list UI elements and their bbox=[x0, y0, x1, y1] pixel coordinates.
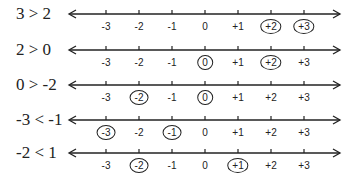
number-line-row: 3 > 2-3-2-10+1+2+3 bbox=[0, 14, 360, 49]
tick-label: -2 bbox=[135, 57, 144, 68]
tick-label: -1 bbox=[168, 21, 177, 32]
tick-label: +3 bbox=[298, 160, 309, 171]
number-line-axis bbox=[0, 45, 360, 55]
number-line-axis bbox=[0, 115, 360, 125]
tick-label: +2 bbox=[265, 160, 276, 171]
tick-label: +1 bbox=[232, 127, 243, 138]
tick-label: -2 bbox=[135, 21, 144, 32]
tick-label: -3 bbox=[102, 57, 111, 68]
circled-tick-label: +2 bbox=[260, 19, 281, 34]
tick-label: +2 bbox=[265, 92, 276, 103]
tick-label: 0 bbox=[202, 21, 208, 32]
circled-tick-label: -1 bbox=[163, 125, 182, 140]
circled-tick-label: -2 bbox=[130, 90, 149, 105]
tick-label: -1 bbox=[168, 57, 177, 68]
tick-label: 0 bbox=[202, 160, 208, 171]
tick-label: -3 bbox=[102, 21, 111, 32]
number-line-axis bbox=[0, 9, 360, 19]
number-line-row: -2 < 1-3-2-10+1+2+3 bbox=[0, 153, 360, 179]
circled-tick-label: +2 bbox=[260, 55, 281, 70]
tick-label: -3 bbox=[102, 92, 111, 103]
circled-tick-label: +1 bbox=[227, 158, 248, 173]
tick-label: +1 bbox=[232, 57, 243, 68]
circled-tick-label: 0 bbox=[197, 90, 213, 105]
tick-label: +3 bbox=[298, 127, 309, 138]
tick-label: 0 bbox=[202, 127, 208, 138]
tick-label: +2 bbox=[265, 127, 276, 138]
tick-label: +1 bbox=[232, 92, 243, 103]
number-line-axis bbox=[0, 80, 360, 90]
circled-tick-label: -2 bbox=[130, 158, 149, 173]
tick-label: -1 bbox=[168, 92, 177, 103]
number-line-axis bbox=[0, 148, 360, 158]
tick-label: +1 bbox=[232, 21, 243, 32]
tick-label: -1 bbox=[168, 160, 177, 171]
tick-label: +3 bbox=[298, 57, 309, 68]
circled-tick-label: 0 bbox=[197, 55, 213, 70]
tick-label: -3 bbox=[102, 160, 111, 171]
circled-tick-label: -3 bbox=[97, 125, 116, 140]
tick-label: +3 bbox=[298, 92, 309, 103]
circled-tick-label: +3 bbox=[293, 19, 314, 34]
tick-label: -2 bbox=[135, 127, 144, 138]
